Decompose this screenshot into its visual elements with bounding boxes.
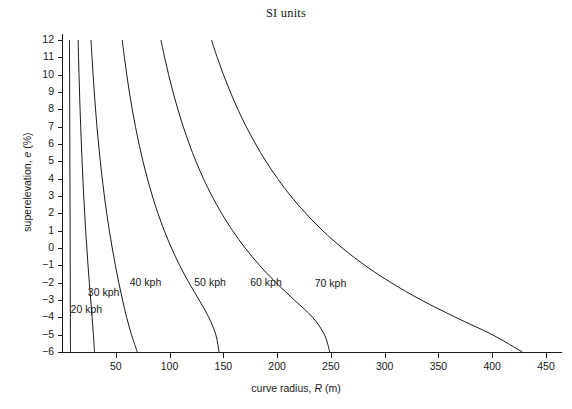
y-tick-label: 3	[32, 189, 54, 201]
y-axis-label-symbol: e	[21, 152, 33, 158]
curve-label-60-kph: 60 kph	[250, 276, 282, 288]
y-tick-label: −4	[32, 310, 54, 322]
x-tick-label: 50	[96, 360, 136, 372]
y-tick-label: 2	[32, 206, 54, 218]
curve-paths	[70, 40, 523, 352]
x-axis-label: curve radius, R (m)	[176, 382, 416, 394]
y-tick-label: 6	[32, 137, 54, 149]
curve-label-40-kph: 40 kph	[130, 276, 162, 288]
y-tick-label: 12	[32, 33, 54, 45]
y-tick-label: 11	[32, 50, 54, 62]
y-tick-label: 9	[32, 85, 54, 97]
y-tick-label: 8	[32, 102, 54, 114]
x-tick-label: 150	[203, 360, 243, 372]
y-axis-label: superelevation, e (%)	[21, 92, 33, 272]
y-tick-label: −6	[32, 345, 54, 357]
curve-70-kph	[211, 40, 522, 352]
x-axis-label-post: (m)	[322, 382, 341, 394]
y-tick-label: 10	[32, 68, 54, 80]
x-tick-label: 400	[472, 360, 512, 372]
y-tick-label: −3	[32, 293, 54, 305]
plot-area	[0, 0, 572, 409]
x-axis-label-symbol: R	[314, 382, 322, 394]
y-tick-label: 4	[32, 172, 54, 184]
curve-label-70-kph: 70 kph	[315, 277, 347, 289]
y-tick-label: −5	[32, 328, 54, 340]
curve-60-kph	[161, 40, 330, 352]
curve-50-kph	[122, 40, 219, 352]
y-tick-label: 0	[32, 241, 54, 253]
y-tick-label: −2	[32, 276, 54, 288]
x-axis-label-pre: curve radius,	[251, 382, 314, 394]
x-tick-label: 250	[311, 360, 351, 372]
y-axis-label-post: (%)	[21, 132, 33, 151]
x-tick-label: 450	[526, 360, 566, 372]
axis-lines	[63, 34, 563, 353]
curve-label-30-kph: 30 kph	[88, 286, 120, 298]
y-axis-label-pre: superelevation,	[21, 157, 33, 231]
tick-marks	[58, 41, 547, 358]
y-tick-label: 1	[32, 224, 54, 236]
curve-label-50-kph: 50 kph	[194, 276, 226, 288]
x-tick-label: 350	[418, 360, 458, 372]
x-tick-label: 200	[257, 360, 297, 372]
y-tick-label: −1	[32, 258, 54, 270]
y-tick-label: 7	[32, 120, 54, 132]
x-tick-label: 300	[365, 360, 405, 372]
curve-label-20-kph: 20 kph	[71, 303, 103, 315]
chart-figure: SI units 1211109876543210−1−2−3−4−5−6 50…	[0, 0, 572, 409]
x-tick-label: 100	[150, 360, 190, 372]
y-tick-label: 5	[32, 154, 54, 166]
